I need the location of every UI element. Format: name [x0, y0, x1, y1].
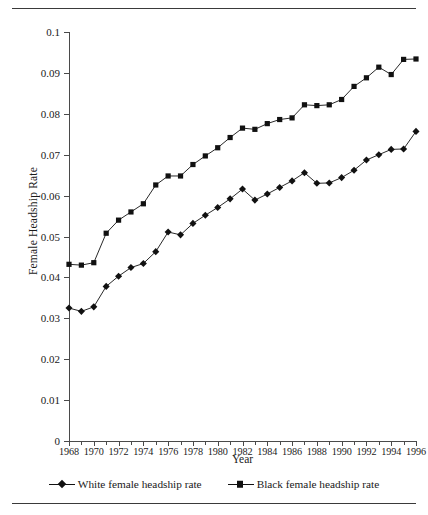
legend-label-black: Black female headship rate: [257, 478, 380, 490]
data-point-square: [104, 231, 109, 236]
y-tick-label: 0.06: [41, 189, 60, 204]
x-tick-minor: [379, 441, 380, 445]
data-point-diamond: [289, 177, 296, 184]
data-point-diamond: [90, 303, 97, 310]
x-tick-minor: [81, 441, 82, 445]
data-point-square: [327, 102, 332, 107]
line-chart-figure: Female Headship Rate 00.010.020.030.040.…: [0, 0, 428, 515]
x-tick-minor: [230, 441, 231, 445]
data-point-square: [215, 145, 220, 150]
legend-entry-black: Black female headship rate: [228, 478, 380, 490]
data-point-square: [166, 173, 171, 178]
x-tick-minor: [106, 441, 107, 445]
data-point-square: [401, 57, 406, 62]
chart-legend: White female headship rate Black female …: [0, 478, 428, 490]
square-marker-icon: [228, 479, 254, 489]
data-point-square: [128, 209, 133, 214]
y-tick-label: 0.04: [41, 270, 60, 285]
data-point-square: [314, 103, 319, 108]
data-point-square: [153, 182, 158, 187]
x-tick-minor: [329, 441, 330, 445]
y-tick-label: 0.07: [41, 148, 60, 163]
x-tick-minor: [404, 441, 405, 445]
data-point-square: [265, 121, 270, 126]
x-axis-title: Year: [69, 453, 416, 465]
data-point-diamond: [400, 145, 407, 152]
data-point-diamond: [388, 146, 395, 153]
data-point-square: [376, 65, 381, 70]
x-tick-minor: [131, 441, 132, 445]
plot-area: 00.010.020.030.040.050.060.070.080.090.1…: [69, 32, 416, 441]
y-tick-label: 0.1: [46, 25, 60, 40]
x-tick-minor: [255, 441, 256, 445]
data-point-diamond: [375, 151, 382, 158]
y-axis-title: Female Headship Rate: [27, 131, 39, 311]
data-point-square: [141, 201, 146, 206]
x-tick-minor: [156, 441, 157, 445]
data-point-square: [413, 56, 418, 61]
data-point-square: [203, 153, 208, 158]
data-point-square: [351, 84, 356, 89]
y-tick-label: 0.08: [41, 107, 60, 122]
data-point-diamond: [326, 179, 333, 186]
data-point-diamond: [127, 264, 134, 271]
y-tick-label: 0.09: [41, 66, 60, 81]
data-point-diamond: [338, 174, 345, 181]
data-point-square: [289, 115, 294, 120]
series-plot-svg: [69, 32, 416, 441]
data-point-diamond: [78, 308, 85, 315]
y-tick-label: 0.03: [41, 311, 60, 326]
data-point-diamond: [165, 228, 172, 235]
data-point-square: [302, 102, 307, 107]
y-tick-label: 0.02: [41, 352, 60, 367]
data-point-square: [252, 127, 257, 132]
data-point-square: [116, 218, 121, 223]
data-point-square: [339, 97, 344, 102]
data-point-square: [364, 75, 369, 80]
data-point-square: [389, 72, 394, 77]
data-point-square: [91, 260, 96, 265]
x-tick-minor: [354, 441, 355, 445]
data-point-diamond: [412, 128, 419, 135]
y-tick-label: 0.05: [41, 230, 60, 245]
diamond-marker-icon: [49, 479, 75, 489]
data-point-diamond: [65, 305, 72, 312]
data-point-square: [79, 263, 84, 268]
y-tick-label: 0.01: [41, 393, 60, 408]
data-point-square: [228, 135, 233, 140]
legend-entry-white: White female headship rate: [49, 478, 202, 490]
data-point-square: [66, 262, 71, 267]
data-point-square: [190, 162, 195, 167]
legend-label-white: White female headship rate: [78, 478, 202, 490]
x-tick-minor: [181, 441, 182, 445]
data-point-square: [240, 126, 245, 131]
x-tick-minor: [304, 441, 305, 445]
data-point-diamond: [264, 190, 271, 197]
data-point-diamond: [214, 204, 221, 211]
data-point-diamond: [202, 212, 209, 219]
x-tick-minor: [205, 441, 206, 445]
data-point-square: [277, 117, 282, 122]
x-tick-minor: [280, 441, 281, 445]
data-point-diamond: [276, 184, 283, 191]
data-point-square: [178, 173, 183, 178]
